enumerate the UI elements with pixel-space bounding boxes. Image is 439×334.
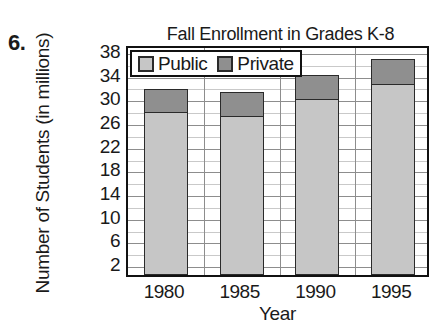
- y-tick-label: 26: [78, 113, 120, 132]
- y-axis-tick-labels: 383430262218141062: [78, 0, 120, 334]
- chart-title: Fall Enrollment in Grades K-8: [128, 24, 433, 45]
- bar-1990: [295, 74, 339, 275]
- private-swatch-icon: [217, 56, 233, 72]
- legend-entry-private: Private: [217, 54, 293, 73]
- y-tick-label: 30: [78, 89, 120, 108]
- bar-segment-public-1985: [220, 115, 264, 275]
- bar-segment-private-1985: [220, 92, 264, 116]
- bar-segment-public-1995: [371, 84, 415, 275]
- legend-label-public: Public: [158, 54, 207, 73]
- public-swatch-icon: [138, 56, 154, 72]
- gridline-vertical: [355, 48, 356, 275]
- problem-number: 6.: [8, 30, 25, 56]
- y-tick-label: 38: [78, 42, 120, 61]
- y-tick-label: 10: [78, 208, 120, 227]
- y-tick-label: 22: [78, 137, 120, 156]
- bar-segment-private-1980: [144, 89, 188, 113]
- plot-area: [126, 46, 429, 277]
- gridline-vertical: [204, 48, 205, 275]
- enrollment-bar-chart-figure: 6. Number of Students (in millions) Fall…: [0, 0, 439, 334]
- y-axis-title: Number of Students (in millions): [32, 28, 54, 298]
- bar-1995: [371, 57, 415, 275]
- x-axis-title: Year: [126, 303, 429, 325]
- x-tick-label: 1980: [126, 281, 202, 303]
- bar-segment-private-1990: [295, 75, 339, 100]
- chart-legend: Public Private: [130, 50, 302, 77]
- y-tick-label: 14: [78, 184, 120, 203]
- y-tick-label: 2: [78, 255, 120, 274]
- legend-label-private: Private: [237, 54, 293, 73]
- y-tick-label: 18: [78, 160, 120, 179]
- y-tick-label: 34: [78, 66, 120, 85]
- bar-segment-private-1995: [371, 59, 415, 86]
- bar-segment-public-1980: [144, 112, 188, 275]
- y-tick-label: 6: [78, 231, 120, 250]
- gridline-vertical: [280, 48, 281, 275]
- bar-1985: [220, 91, 264, 275]
- bar-1980: [144, 87, 188, 275]
- legend-entry-public: Public: [138, 54, 207, 73]
- x-tick-label: 1990: [277, 281, 353, 303]
- bar-segment-public-1990: [295, 99, 339, 276]
- x-tick-label: 1995: [353, 281, 429, 303]
- x-axis-tick-labels: 1980198519901995: [126, 281, 429, 305]
- x-tick-label: 1985: [202, 281, 278, 303]
